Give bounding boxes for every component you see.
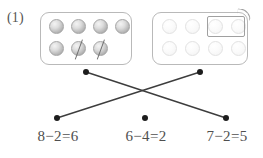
dot-equation-0[interactable]	[54, 115, 60, 121]
line-left-box-to-equation-2[interactable]	[86, 72, 226, 118]
dot-right-box[interactable]	[197, 69, 203, 75]
dot-equation-2[interactable]	[223, 115, 229, 121]
equation-option-0[interactable]: 8−2=6	[22, 128, 94, 145]
dot-left-box[interactable]	[83, 69, 89, 75]
line-right-box-to-equation-0[interactable]	[57, 72, 200, 118]
dot-equation-1[interactable]	[142, 115, 148, 121]
equation-option-1[interactable]: 6−4=2	[110, 128, 182, 145]
worksheet-problem: (1)	[0, 0, 263, 158]
equation-option-2[interactable]: 7−2=5	[191, 128, 263, 145]
